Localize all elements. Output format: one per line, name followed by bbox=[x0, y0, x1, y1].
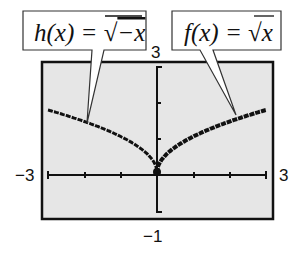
svg-text:h(x) = √−x: h(x) = √−x bbox=[34, 19, 145, 47]
origin-point bbox=[153, 168, 161, 176]
label-xmin: −3 bbox=[15, 166, 34, 185]
callout-f-lhs: f(x) = bbox=[184, 19, 248, 47]
callout-h-rad: −x bbox=[117, 19, 145, 46]
callout-f-rad: x bbox=[261, 19, 273, 46]
graphing-calculator-figure: h(x) = √−x f(x) = √x 3 −1 −3 3 bbox=[0, 0, 305, 258]
label-ymin: −1 bbox=[143, 227, 162, 246]
label-xmax: 3 bbox=[279, 166, 288, 185]
svg-text:f(x) = √x: f(x) = √x bbox=[184, 19, 273, 47]
callout-h-lhs: h(x) = bbox=[34, 19, 104, 47]
label-ymax: 3 bbox=[151, 43, 160, 62]
